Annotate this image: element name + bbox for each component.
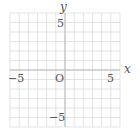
coordinate-plane: y x O −5 5 5 −5 (0, 0, 140, 139)
x-axis-label: x (124, 62, 131, 76)
origin-label: O (55, 72, 64, 85)
x-tick-label-5: 5 (107, 72, 114, 85)
y-tick-label-5: 5 (57, 17, 64, 30)
y-tick-label-neg5: −5 (49, 111, 65, 124)
x-tick-label-neg5: −5 (8, 72, 24, 85)
y-axis-label: y (59, 0, 67, 14)
